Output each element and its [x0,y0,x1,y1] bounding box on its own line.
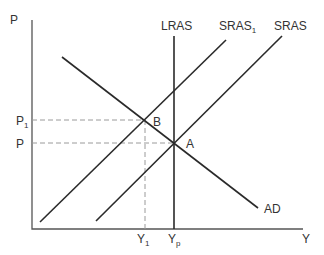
diagram-canvas: P Y LRAS SRAS1 SRAS AD B A P1 P Y1 Yp [0,0,324,255]
y1-label: Y1 [137,232,150,248]
sras-curve [96,36,282,221]
sras-label: SRAS [274,19,307,33]
yp-label: Yp [168,232,181,248]
ad-label: AD [264,202,281,216]
lras-label: LRAS [161,19,192,33]
sras1-curve [40,40,226,222]
p1-label: P1 [16,114,29,130]
sras1-label: SRAS1 [219,19,257,35]
p-label: P [16,137,24,151]
x-axis-label: Y [302,232,310,246]
as-ad-diagram: P Y LRAS SRAS1 SRAS AD B A P1 P Y1 Yp [0,0,324,255]
axes [32,20,303,229]
point-a-label: A [186,137,194,151]
y-axis-label: P [10,13,18,27]
point-b-label: B [153,115,161,129]
ad-curve [62,57,258,208]
